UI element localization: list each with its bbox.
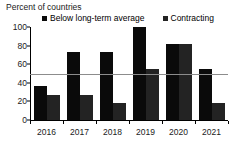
x-axis-tick-mark [228,121,229,124]
y-axis-tick-label: 40 [18,78,27,87]
chart-container: Percent of countries Below long-term ave… [0,0,232,145]
x-axis-tick-label: 2016 [30,126,63,140]
x-axis-tick-mark [195,121,196,124]
bar [212,103,225,120]
x-axis-tick-label: 2017 [63,126,96,140]
page-title: Percent of countries [6,2,82,12]
x-axis-tick-label: 2019 [129,126,162,140]
chart-legend: Below long-term average Contracting [42,13,214,23]
bar [146,69,159,120]
bar [80,95,93,120]
y-axis-tick-mark [27,82,30,83]
x-axis-tick-label: 2020 [162,126,195,140]
legend-swatch-icon-0 [42,16,47,21]
x-axis-tick-mark [63,121,64,124]
bar [100,52,113,120]
bar [67,52,80,120]
y-axis-tick-label: 20 [18,97,27,106]
bar [199,69,212,120]
bar [47,95,60,120]
y-axis-tick-label: 100 [13,23,27,32]
bar [166,44,179,120]
x-axis-tick-mark [162,121,163,124]
legend-item-0: Below long-term average [42,13,145,23]
x-axis-tick-mark [96,121,97,124]
x-axis-labels: 201620172018201920202021 [30,126,228,140]
y-axis-tick-mark [27,27,30,28]
legend-item-1: Contracting [163,13,214,23]
bar [179,44,192,120]
legend-swatch-icon-1 [163,16,168,21]
y-axis-tick-mark [27,64,30,65]
y-axis-tick-label: 80 [18,41,27,50]
bar [34,86,47,120]
bar [113,103,126,120]
x-axis-tick-label: 2018 [96,126,129,140]
y-axis-tick-label: 60 [18,60,27,69]
y-axis-tick-mark [27,45,30,46]
y-axis-labels: 020406080100 [0,27,27,120]
x-axis-tick-mark [129,121,130,124]
legend-label-0: Below long-term average [50,13,145,23]
reference-line [30,74,228,76]
plot-area [30,27,228,120]
legend-label-1: Contracting [171,13,214,23]
x-axis-tick-mark [30,121,31,124]
y-axis-tick-mark [27,101,30,102]
x-axis-tick-label: 2021 [195,126,228,140]
